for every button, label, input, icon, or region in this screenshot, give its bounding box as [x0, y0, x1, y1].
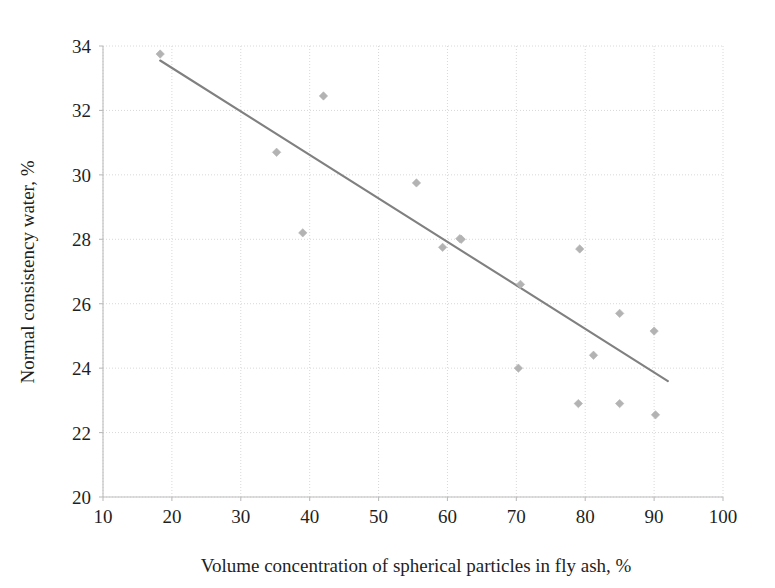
x-tick-label: 60 — [438, 506, 457, 527]
scatter-plot: 102030405060708090100 2022242628303234 V… — [0, 0, 775, 588]
x-tick-label: 50 — [369, 506, 388, 527]
chart-background — [0, 0, 775, 588]
x-tick-label: 10 — [94, 506, 113, 527]
x-axis-title: Volume concentration of spherical partic… — [201, 555, 632, 576]
y-tick-label: 22 — [72, 423, 91, 444]
y-tick-label: 30 — [72, 165, 91, 186]
y-tick-label: 32 — [72, 100, 91, 121]
x-tick-label: 70 — [507, 506, 526, 527]
y-tick-label: 34 — [72, 36, 92, 57]
y-axis-title: Normal consistency water, % — [17, 160, 38, 383]
x-tick-label: 30 — [231, 506, 250, 527]
y-tick-label: 26 — [72, 294, 91, 315]
x-tick-label: 20 — [162, 506, 181, 527]
y-tick-label: 28 — [72, 229, 91, 250]
x-tick-label: 40 — [300, 506, 319, 527]
chart-figure: 102030405060708090100 2022242628303234 V… — [0, 0, 775, 588]
x-tick-label: 80 — [576, 506, 595, 527]
y-tick-label: 24 — [72, 358, 92, 379]
x-tick-label: 90 — [645, 506, 664, 527]
x-tick-label: 100 — [709, 506, 738, 527]
y-tick-label: 20 — [72, 487, 91, 508]
